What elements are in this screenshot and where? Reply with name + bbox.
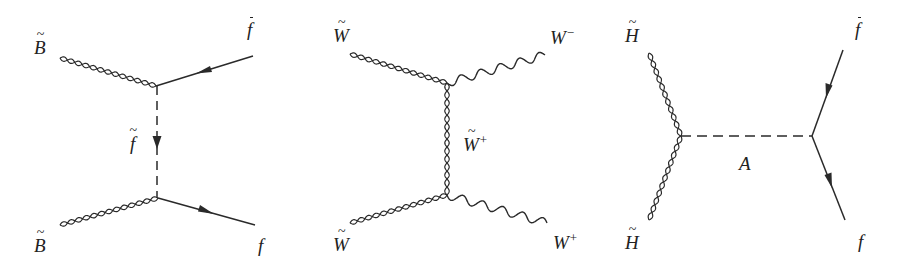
- higgsino-top-line: [648, 53, 681, 136]
- higgsino-fermion-top-arrow-icon: [826, 83, 833, 98]
- label-f-right: f: [858, 232, 863, 251]
- label-wino-propagator: W+: [463, 133, 487, 154]
- higgsino-bottom-line-2: [649, 136, 682, 220]
- higgsino-top-line-2: [649, 53, 682, 136]
- w-minus-boson-line: [447, 52, 545, 85]
- label-pseudoscalar-a: A: [739, 154, 751, 173]
- bino-fermion-bottom-arrow-icon: [198, 205, 214, 214]
- label-w-plus: W+: [553, 231, 577, 252]
- diagram-bino: [60, 56, 255, 226]
- label-sfermion-propagator: f: [130, 134, 135, 153]
- diagram-wino: [350, 52, 547, 224]
- label-wino-bottom-left: W: [333, 235, 349, 254]
- label-higgsino-top: H: [625, 26, 639, 45]
- w-plus-boson-line: [447, 195, 547, 223]
- bino-propagator-arrow-icon: [153, 136, 162, 149]
- label-fbar-right: f: [855, 20, 860, 39]
- bino-fermion-top-arrow-icon: [196, 66, 212, 74]
- label-wino-top-left: W: [333, 26, 349, 45]
- label-higgsino-bottom: H: [625, 233, 639, 252]
- label-fbar-top-right: f: [247, 20, 252, 39]
- label-bino-bottom-left: B: [34, 236, 46, 255]
- label-f-bottom-right: f: [258, 236, 263, 255]
- label-w-minus: W−: [550, 26, 574, 47]
- higgsino-fermion-bottom-arrow-icon: [825, 173, 833, 189]
- wino-propagator-line-2: [445, 83, 449, 195]
- higgsino-bottom-line: [648, 136, 681, 220]
- diagram-higgsino: [648, 50, 845, 220]
- label-bino-top-left: B: [34, 38, 46, 57]
